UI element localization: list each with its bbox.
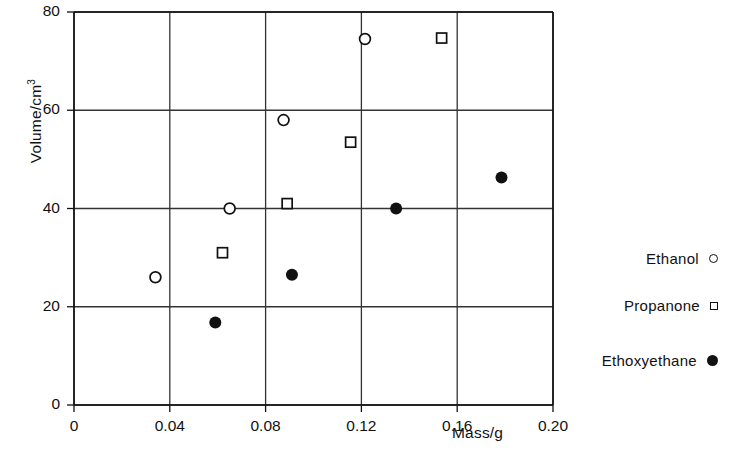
x-tick-label: 0.12 — [333, 417, 389, 435]
data-point-open-circle — [224, 203, 235, 214]
legend-marker-filled-circle-icon — [707, 355, 718, 366]
data-point-open-circle — [150, 272, 161, 283]
x-tick-label: 0 — [46, 417, 102, 435]
y-tick-label: 80 — [18, 2, 60, 20]
legend-entry-ethoxyethane[interactable]: Ethoxyethane — [560, 352, 718, 369]
legend-entry-ethanol[interactable]: Ethanol — [560, 250, 718, 267]
x-tick-label: 0.08 — [238, 417, 294, 435]
legend-entry-propanone[interactable]: Propanone — [560, 297, 718, 314]
data-point-open-square — [437, 33, 447, 43]
y-axis-title-text: Volume/cm — [27, 85, 44, 163]
data-point-filled-circle — [286, 269, 298, 281]
data-point-open-circle — [278, 115, 289, 126]
y-axis-title-exponent: 3 — [26, 79, 37, 85]
data-point-filled-circle — [209, 316, 221, 328]
x-tick-label: 0.16 — [429, 417, 485, 435]
scatter-chart-figure: Volume/cm3 Mass/g 020406080 00.040.080.1… — [0, 0, 733, 473]
data-point-open-circle — [360, 34, 371, 45]
y-tick-label: 20 — [18, 297, 60, 315]
legend-marker-open-square-icon — [710, 302, 718, 310]
data-point-open-square — [282, 199, 292, 209]
y-tick-label: 0 — [18, 395, 60, 413]
y-tick-label: 40 — [18, 199, 60, 217]
plot-canvas — [0, 0, 733, 473]
data-point-filled-circle — [390, 203, 402, 215]
y-tick-label: 60 — [18, 100, 60, 118]
data-point-filled-circle — [496, 172, 508, 184]
legend-label: Ethanol — [646, 250, 699, 267]
x-tick-label: 0.04 — [142, 417, 198, 435]
legend-marker-open-circle-icon — [709, 254, 718, 263]
legend-label: Ethoxyethane — [602, 352, 697, 369]
data-point-open-square — [217, 248, 227, 258]
y-axis-title: Volume/cm3 — [27, 61, 45, 181]
legend-label: Propanone — [624, 297, 700, 314]
data-point-open-square — [346, 137, 356, 147]
x-tick-label: 0.20 — [525, 417, 581, 435]
